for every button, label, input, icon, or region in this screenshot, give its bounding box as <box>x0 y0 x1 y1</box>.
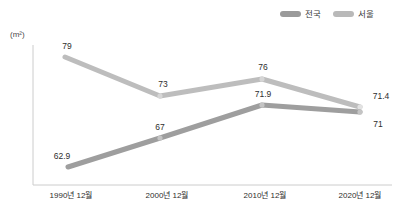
data-point-seoul-2000 <box>157 93 162 98</box>
data-point-seoul-2010 <box>259 76 264 81</box>
x-tick-label-2020: 2020년 12월 <box>339 192 382 200</box>
value-label-seoul-2020: 71.4 <box>373 92 390 101</box>
value-label-seoul-2010: 76 <box>258 63 267 72</box>
series-line-nationwide <box>68 105 360 167</box>
x-tick-label-2000: 2000년 12월 <box>146 192 189 200</box>
value-label-seoul-1990: 79 <box>62 42 71 51</box>
data-point-nationwide-2020 <box>357 109 362 114</box>
data-point-nationwide-2000 <box>157 135 162 140</box>
chart-plot-area <box>0 0 405 216</box>
value-label-seoul-2000: 73 <box>158 80 167 89</box>
value-label-nationwide-2010: 71.9 <box>255 90 272 99</box>
series-line-seoul <box>65 57 360 107</box>
value-label-nationwide-1990: 62.9 <box>54 152 71 161</box>
data-point-nationwide-2010 <box>259 102 264 107</box>
chart-container: 전국 서울 (m²) 79 73 76 71.4 62.9 67 71.9 71… <box>0 0 405 216</box>
x-tick-label-2010: 2010년 12월 <box>244 192 287 200</box>
data-point-seoul-2020 <box>357 104 362 109</box>
x-tick-label-1990: 1990년 12월 <box>50 192 93 200</box>
value-label-nationwide-2020: 71 <box>373 120 382 129</box>
value-label-nationwide-2000: 67 <box>155 123 164 132</box>
